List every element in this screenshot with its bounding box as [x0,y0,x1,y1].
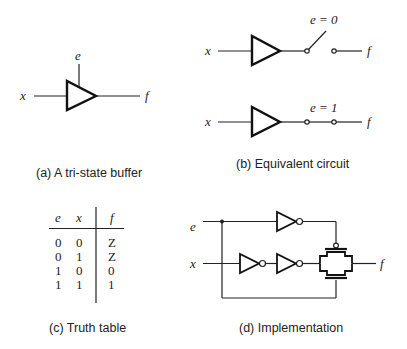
table-row: 0 1 Z [55,249,116,264]
cell-e: 0 [55,249,62,264]
inverter-bubble-icon [297,219,303,225]
inverter-icon [240,254,259,273]
header-e: e [55,210,61,225]
input-label-x: x [19,88,26,103]
switch-terminal-icon [305,120,309,124]
switch-terminal-icon [332,120,336,124]
switch-label-e0: e = 0 [310,12,338,27]
input-label-x: x [189,256,196,271]
output-label-f: f [145,88,151,103]
buffer-icon [252,107,280,136]
transmission-gate-icon [320,243,352,278]
caption-a: (a) A tri-state buffer [36,166,142,180]
header-f: f [110,210,116,225]
inverter-bubble-icon [260,261,266,267]
panel-c-truth-table: e x f 0 0 Z 0 1 Z 1 0 0 1 1 1 (c) Truth … [49,207,126,335]
buffer-icon [252,36,280,65]
caption-d: (d) Implementation [239,321,343,335]
table-row: 1 1 1 [55,277,115,292]
equivalent-closed-switch: x f e = 1 [204,100,373,136]
cell-x: 0 [76,263,83,278]
output-label-f: f [367,114,373,129]
cell-f: 1 [108,277,115,292]
output-label-f: f [367,43,373,58]
table-row: 0 0 Z [55,235,116,250]
cell-e: 1 [55,277,62,292]
switch-terminal-icon [332,49,336,53]
input-label-x: x [204,114,211,129]
cell-x: 0 [76,235,83,250]
cell-e: 1 [55,263,62,278]
cell-x: 1 [76,249,83,264]
open-switch-icon [309,31,327,50]
cell-f: Z [108,249,116,264]
caption-c: (c) Truth table [49,321,126,335]
table-row: 1 0 0 [55,263,115,278]
cell-x: 1 [76,277,83,292]
inverter-icon [277,254,296,273]
inverter-icon [277,212,296,231]
cell-f: Z [108,235,116,250]
panel-a-tri-state-buffer: x e f (a) A tri-state buffer [19,48,151,180]
header-x: x [75,210,82,225]
output-label-f: f [380,256,386,271]
cell-f: 0 [108,263,115,278]
input-label-x: x [204,43,211,58]
caption-b: (b) Equivalent circuit [236,157,350,171]
cell-e: 0 [55,235,62,250]
inverter-bubble-icon [297,261,303,267]
enable-label-e: e [190,219,196,234]
enable-label-e: e [75,48,81,63]
switch-label-e1: e = 1 [310,100,338,115]
tri-state-buffer-figure: x e f (a) A tri-state buffer x f e = 0 x [0,0,407,349]
panel-d-implementation: e x f (d) Implementation [189,212,386,335]
panel-b-equivalent-circuit: x f e = 0 x f e = 1 (b) Equivalent circu… [204,12,373,171]
buffer-icon [67,81,96,110]
equivalent-open-switch: x f e = 0 [204,12,373,65]
